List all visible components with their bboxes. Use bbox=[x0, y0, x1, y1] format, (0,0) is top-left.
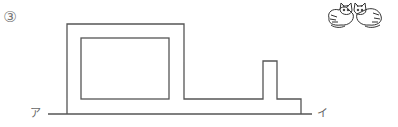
label-start-a: ア bbox=[30, 108, 41, 119]
two-cats-icon bbox=[325, 0, 385, 30]
inner-rectangle bbox=[81, 38, 169, 99]
label-end-i: イ bbox=[317, 108, 328, 119]
